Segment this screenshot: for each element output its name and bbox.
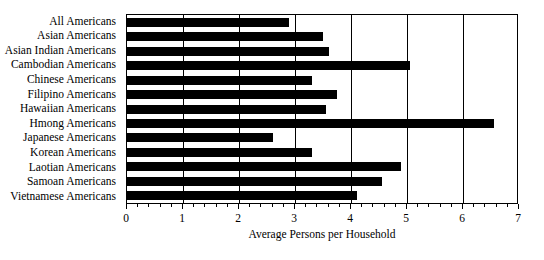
bar xyxy=(127,105,326,114)
bar xyxy=(127,162,401,171)
minor-tick xyxy=(272,204,273,207)
minor-tick xyxy=(440,204,441,207)
bar xyxy=(127,18,289,27)
x-tick-label: 7 xyxy=(515,209,521,227)
y-axis-label: Filipino Americans xyxy=(0,87,122,102)
x-tick-label: 1 xyxy=(179,209,185,227)
x-tick-label: 2 xyxy=(235,209,241,227)
y-axis-label: Laotian Americans xyxy=(0,160,122,175)
x-tick-label: 0 xyxy=(123,209,129,227)
bar-row xyxy=(127,102,517,116)
bar-row xyxy=(127,174,517,188)
y-axis-label: Cambodian Americans xyxy=(0,58,122,73)
minor-tick xyxy=(372,204,373,207)
minor-tick xyxy=(451,204,452,207)
y-axis-label: Asian Americans xyxy=(0,29,122,44)
x-tick-label: 4 xyxy=(347,209,353,227)
bar-chart: All AmericansAsian AmericansAsian Indian… xyxy=(0,0,544,260)
minor-tick xyxy=(283,204,284,207)
minor-tick xyxy=(305,204,306,207)
minor-tick xyxy=(193,204,194,207)
plot-area xyxy=(126,14,518,204)
bar xyxy=(127,177,382,186)
minor-tick xyxy=(328,204,329,207)
minor-tick xyxy=(484,204,485,207)
chart-title-cropped xyxy=(120,0,420,3)
bar-row xyxy=(127,44,517,58)
minor-tick xyxy=(417,204,418,207)
x-axis-title: Average Persons per Household xyxy=(126,228,518,240)
y-axis-label: Samoan Americans xyxy=(0,175,122,190)
x-axis-tick-labels: 01234567 xyxy=(126,209,518,227)
minor-tick xyxy=(473,204,474,207)
bar xyxy=(127,61,410,70)
bar xyxy=(127,119,494,128)
bar xyxy=(127,148,312,157)
x-tick-label: 3 xyxy=(291,209,297,227)
x-tick-label: 5 xyxy=(403,209,409,227)
minor-tick xyxy=(507,204,508,207)
bar-row xyxy=(127,29,517,43)
bar-row xyxy=(127,116,517,130)
minor-tick xyxy=(339,204,340,207)
bar-row xyxy=(127,15,517,29)
y-axis-label: All Americans xyxy=(0,14,122,29)
minor-tick xyxy=(148,204,149,207)
minor-tick xyxy=(249,204,250,207)
y-axis-label: Japanese Americans xyxy=(0,131,122,146)
bar-row xyxy=(127,58,517,72)
bar xyxy=(127,76,312,85)
y-axis-label: Asian Indian Americans xyxy=(0,43,122,58)
minor-tick xyxy=(384,204,385,207)
y-axis-label: Hawaiian Americans xyxy=(0,102,122,117)
bar xyxy=(127,47,329,56)
y-axis-label: Korean Americans xyxy=(0,145,122,160)
minor-tick xyxy=(428,204,429,207)
bar-row xyxy=(127,160,517,174)
minor-tick xyxy=(260,204,261,207)
bar xyxy=(127,191,357,200)
bar-row xyxy=(127,73,517,87)
bar xyxy=(127,32,323,41)
bar-row xyxy=(127,87,517,101)
minor-tick xyxy=(204,204,205,207)
minor-tick xyxy=(171,204,172,207)
minor-tick xyxy=(137,204,138,207)
y-axis-label: Hmong Americans xyxy=(0,116,122,131)
minor-tick xyxy=(395,204,396,207)
minor-tick xyxy=(361,204,362,207)
bar-row xyxy=(127,145,517,159)
bar-row xyxy=(127,131,517,145)
minor-tick xyxy=(496,204,497,207)
bar xyxy=(127,90,337,99)
bar-row xyxy=(127,189,517,203)
y-axis-label: Chinese Americans xyxy=(0,72,122,87)
bar xyxy=(127,133,273,142)
x-tick-label: 6 xyxy=(459,209,465,227)
bar-rows xyxy=(127,15,517,203)
y-axis-category-labels: All AmericansAsian AmericansAsian Indian… xyxy=(0,14,122,204)
minor-tick xyxy=(160,204,161,207)
minor-tick xyxy=(216,204,217,207)
y-axis-label: Vietnamese Americans xyxy=(0,189,122,204)
minor-tick xyxy=(227,204,228,207)
minor-tick xyxy=(316,204,317,207)
